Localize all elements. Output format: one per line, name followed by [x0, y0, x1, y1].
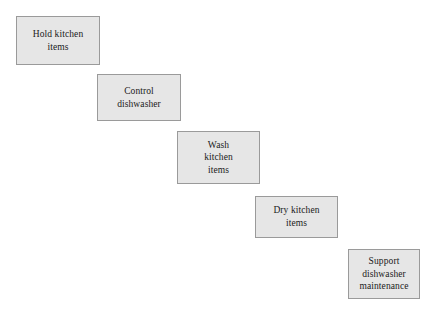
process-box-label: Hold kitchenitems	[21, 28, 95, 53]
process-box-support-dishwasher-maintenance[interactable]: Supportdishwashermaintenance	[348, 249, 420, 299]
process-box-label: Washkitchenitems	[182, 139, 255, 177]
process-box-control-dishwasher[interactable]: Controldishwasher	[97, 74, 181, 121]
process-box-label: Controldishwasher	[102, 85, 176, 110]
diagram-canvas: Hold kitchenitemsControldishwasherWashki…	[0, 0, 435, 314]
process-box-label: Supportdishwashermaintenance	[353, 255, 415, 293]
process-box-wash-kitchen-items[interactable]: Washkitchenitems	[177, 131, 260, 184]
process-box-label: Dry kitchenitems	[260, 204, 333, 229]
process-box-dry-kitchen-items[interactable]: Dry kitchenitems	[255, 196, 338, 238]
process-box-hold-kitchen-items[interactable]: Hold kitchenitems	[16, 16, 100, 65]
